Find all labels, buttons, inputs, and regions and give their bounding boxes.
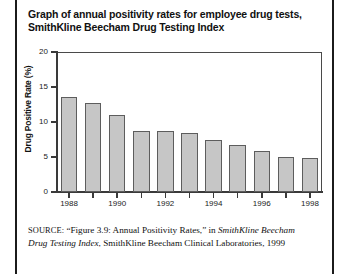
x-axis-tick <box>213 193 215 198</box>
bar-series <box>57 52 322 192</box>
bar <box>205 140 221 192</box>
bar <box>254 151 270 192</box>
x-axis-tick <box>237 193 239 198</box>
bar <box>302 158 318 192</box>
x-axis-tick <box>285 193 287 198</box>
y-axis-tick-label: 10 <box>32 117 48 126</box>
x-axis-tick <box>92 193 94 198</box>
bar <box>133 131 149 192</box>
y-axis-tick <box>51 86 56 88</box>
source-text-part2: , SmithKline Beecham Clinical Laboratori… <box>99 238 286 248</box>
x-axis-tick-label: 1996 <box>247 199 277 208</box>
x-axis-tick <box>141 193 143 198</box>
source-note: SOURCE: “Figure 3.9: Annual Positivity R… <box>28 224 316 250</box>
x-axis-tick-label: 1990 <box>102 199 132 208</box>
x-axis-tick <box>165 193 167 198</box>
x-axis-tick-label: 1992 <box>150 199 180 208</box>
x-axis-tick <box>68 193 70 198</box>
bar <box>229 145 245 192</box>
x-axis-tick <box>116 193 118 198</box>
x-axis-tick-label: 1988 <box>54 199 84 208</box>
y-axis-tick-label: 5 <box>32 152 48 161</box>
bar <box>109 115 125 192</box>
source-text-part1: “Figure 3.9: Annual Positivity Rates,” i… <box>66 225 218 235</box>
figure-container: Graph of annual positivity rates for emp… <box>0 0 349 274</box>
y-axis-tick <box>51 191 56 193</box>
source-label: SOURCE: <box>28 226 64 235</box>
y-axis-tick <box>51 156 56 158</box>
bar <box>181 133 197 192</box>
x-axis-tick-label: 1998 <box>295 199 325 208</box>
x-axis-tick <box>261 193 263 198</box>
y-axis-tick-label: 15 <box>32 82 48 91</box>
chart-plot-area: Drug Positive Rate (%) 05101520 19881990… <box>0 0 349 215</box>
y-axis-tick <box>51 121 56 123</box>
y-axis-tick <box>51 51 56 53</box>
bar <box>61 97 77 192</box>
x-axis-tick <box>309 193 311 198</box>
bar <box>85 103 101 192</box>
y-axis-label: Drug Positive Rate (%) <box>23 54 33 164</box>
x-axis-tick-label: 1994 <box>199 199 229 208</box>
bar <box>157 131 173 192</box>
y-axis-tick-label: 0 <box>32 187 48 196</box>
x-axis-tick <box>189 193 191 198</box>
bar <box>278 157 294 192</box>
y-axis-tick-label: 20 <box>32 47 48 56</box>
